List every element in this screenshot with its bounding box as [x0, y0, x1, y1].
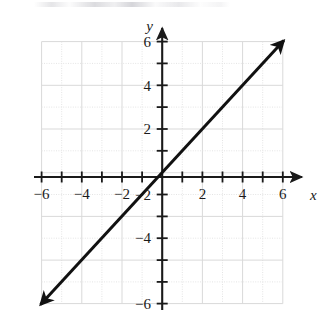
coordinate-plane-figure: −6 −4 −2 2 4 6 6 4 2 −2 −4 −6 y x [0, 0, 333, 322]
y-tick-label: −4 [135, 230, 151, 246]
y-tick-label: 6 [144, 34, 152, 50]
y-axis-label: y [144, 18, 153, 34]
x-tick-label: −4 [74, 186, 90, 202]
plot-area: −6 −4 −2 2 4 6 6 4 2 −2 −4 −6 y x [0, 0, 333, 322]
x-tick-label: −2 [114, 186, 130, 202]
x-axis-label: x [309, 187, 317, 203]
x-tick-label: 2 [199, 186, 207, 202]
y-tick-label: −6 [135, 296, 151, 312]
y-tick-label: 2 [144, 121, 152, 137]
y-tick-label: 4 [144, 78, 152, 94]
x-tick-label: 4 [239, 186, 247, 202]
x-tick-label: −6 [34, 186, 50, 202]
x-tick-label: 6 [279, 186, 287, 202]
y-tick-label: −2 [135, 187, 151, 203]
